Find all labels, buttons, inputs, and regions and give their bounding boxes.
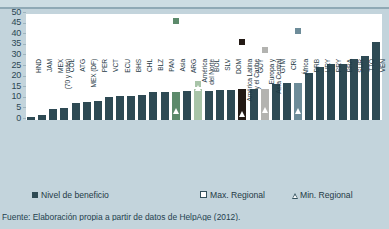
- y-tick-label: 20: [11, 71, 21, 80]
- y-tick-label: 15: [11, 82, 21, 91]
- x-tick-label: ARG: [190, 59, 197, 121]
- y-tick-label: 30: [11, 50, 21, 59]
- x-tick-label: SUR: [357, 59, 364, 121]
- x-tick-label: BLZ: [157, 59, 164, 121]
- top-band: [0, 0, 389, 7]
- open-triangle-icon: [292, 193, 298, 199]
- x-tick-label: GUY: [257, 59, 264, 121]
- y-tick-label: 40: [11, 29, 21, 38]
- x-tick-label: VEN: [379, 59, 386, 121]
- x-tick-label: VCT: [112, 59, 119, 121]
- x-tick-label: PRY: [335, 59, 342, 121]
- y-tick-label: 50: [11, 8, 21, 17]
- x-tick-label: ATG: [79, 59, 86, 121]
- x-tick-label: COL: [68, 59, 75, 121]
- x-tick-label: GTM: [279, 59, 286, 121]
- top-rule: [0, 7, 389, 9]
- x-tick-label: África: [302, 59, 309, 121]
- legend-label-max: Max. Regional: [210, 190, 265, 200]
- y-axis: 05101520253035404550: [0, 12, 25, 122]
- max-regional-marker: [295, 28, 301, 34]
- chart-legend: Nivel de beneficio Max. Regional Min. Re…: [0, 190, 389, 204]
- x-tick-label: SLV: [224, 59, 231, 121]
- x-tick-label: BHS: [135, 59, 142, 121]
- max-regional-marker: [239, 39, 245, 45]
- x-tick-label: BOL: [213, 59, 220, 121]
- y-tick-label: 10: [11, 92, 21, 101]
- legend-label-benefit: Nivel de beneficio: [41, 190, 109, 200]
- x-tick-label: ECU: [124, 59, 131, 121]
- y-tick-label: 25: [11, 61, 21, 70]
- y-tick-label: 0: [16, 114, 21, 123]
- open-square-icon: [200, 191, 207, 198]
- y-tick-label: 35: [11, 39, 21, 48]
- legend-item-benefit: Nivel de beneficio: [32, 190, 109, 200]
- x-tick-label: BRA: [346, 59, 353, 121]
- legend-item-max: Max. Regional: [200, 190, 265, 200]
- source-clip-mask: [0, 221, 389, 229]
- x-tick-label: Asia: [179, 59, 186, 121]
- x-tick-label: MEX (DF): [90, 59, 97, 121]
- x-tick-label: BRB: [313, 59, 320, 121]
- max-regional-marker: [173, 18, 179, 24]
- y-tick-label: 45: [11, 18, 21, 27]
- x-tick-label: TTO: [368, 59, 375, 121]
- y-tick-label: 5: [16, 103, 21, 112]
- y-tick-mark: [23, 12, 26, 13]
- x-tick-label: CRI: [290, 59, 297, 121]
- max-regional-marker: [262, 47, 268, 53]
- x-tick-label: HND: [35, 59, 42, 121]
- x-tick-label: JAM: [46, 59, 53, 121]
- x-tick-label: CHL: [146, 59, 153, 121]
- x-axis-labels: HNDJAMMEX (70 y más)COLATGMEX (DF)PERVCT…: [26, 121, 382, 183]
- x-tick-label: PAN: [168, 59, 175, 121]
- x-tick-label: DOM: [235, 59, 242, 121]
- bar: [27, 117, 35, 120]
- x-tick-label: URY: [324, 59, 331, 121]
- x-tick-label: PER: [101, 59, 108, 121]
- legend-label-min: Min. Regional: [300, 190, 353, 200]
- legend-item-min: Min. Regional: [292, 190, 353, 200]
- filled-square-icon: [32, 192, 38, 198]
